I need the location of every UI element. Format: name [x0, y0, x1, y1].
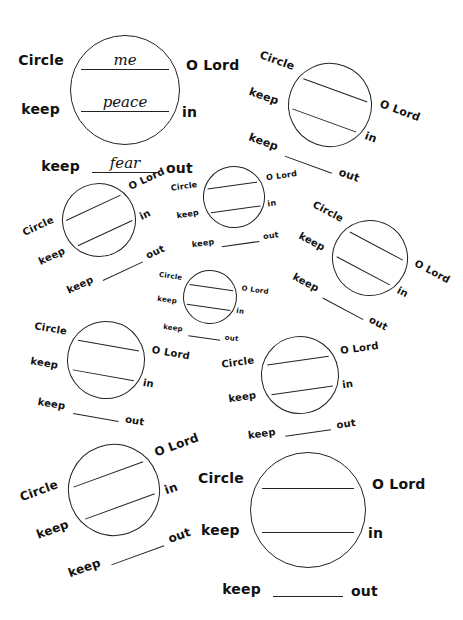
blank-line-circle[interactable] — [262, 488, 355, 489]
label-circle: Circle — [158, 271, 182, 281]
label-in: in — [363, 131, 378, 145]
label-o-lord: O Lord — [151, 345, 191, 362]
label-circle: Circle — [221, 355, 255, 370]
label-circle: Circle — [34, 321, 68, 337]
label-o-lord: O Lord — [241, 286, 269, 297]
prayer-circle — [180, 267, 241, 328]
label-out: out — [337, 167, 361, 185]
blank-line-keep-out[interactable] — [222, 241, 259, 247]
label-circle: Circle — [21, 214, 55, 237]
label-circle: Circle — [258, 50, 296, 73]
blank-line-keep-out[interactable] — [112, 545, 164, 565]
label-out: out — [351, 584, 378, 598]
label-o-lord: O Lord — [372, 477, 425, 491]
label-out: out — [336, 418, 357, 431]
label-out: out — [144, 243, 166, 260]
label-out: out — [167, 526, 193, 545]
label-keep-bottom: keep — [163, 324, 184, 334]
label-out: out — [367, 314, 389, 332]
filled-word-fear: fear — [92, 156, 158, 171]
label-keep: keep — [30, 356, 59, 371]
label-keep-bottom: keep — [192, 239, 215, 250]
blank-line-keep-in[interactable] — [262, 532, 355, 533]
label-out: out — [166, 161, 193, 175]
label-keep: keep — [157, 296, 178, 306]
label-keep-bottom: keep — [37, 397, 66, 412]
label-in: in — [368, 526, 383, 540]
label-circle: Circle — [198, 471, 244, 485]
label-o-lord: O Lord — [153, 432, 200, 459]
blank-line-keep-out[interactable] — [273, 596, 343, 597]
filled-word-peace: peace — [81, 95, 169, 110]
label-keep: keep — [37, 246, 67, 267]
label-keep-bottom: keep — [247, 427, 276, 441]
blank-line-keep-out[interactable] — [323, 298, 364, 320]
label-keep: keep — [228, 390, 257, 404]
blank-line-keep-in[interactable] — [81, 111, 169, 112]
label-in: in — [236, 308, 245, 316]
label-keep-bottom: keep — [41, 159, 80, 173]
label-keep-bottom: keep — [67, 557, 102, 580]
label-o-lord: O Lord — [186, 58, 239, 72]
blank-line-keep-out[interactable] — [285, 430, 331, 438]
blank-line-keep-out[interactable] — [73, 413, 119, 422]
blank-line-circle[interactable] — [81, 69, 169, 70]
prayer-circle — [61, 315, 151, 405]
label-in: in — [142, 377, 155, 389]
label-circle: Circle — [18, 53, 64, 67]
label-keep: keep — [35, 518, 70, 541]
label-in: in — [342, 378, 354, 389]
blank-line-keep-out[interactable] — [188, 335, 220, 340]
label-o-lord: O Lord — [378, 98, 421, 123]
filled-word-me: me — [81, 53, 169, 68]
label-o-lord: O Lord — [413, 258, 452, 285]
label-in: in — [163, 481, 179, 497]
prayer-circle — [199, 162, 269, 232]
prayer-circle — [250, 452, 366, 568]
label-keep: keep — [201, 523, 240, 537]
label-circle: Circle — [18, 478, 59, 503]
label-out: out — [224, 334, 239, 343]
label-circle: Circle — [170, 181, 198, 193]
label-keep-bottom: keep — [291, 272, 320, 294]
label-out: out — [124, 415, 145, 428]
prayer-circle — [256, 331, 344, 419]
label-out: out — [263, 232, 280, 242]
label-keep: keep — [176, 209, 199, 220]
label-o-lord: O Lord — [340, 341, 380, 356]
label-keep-bottom: keep — [65, 274, 95, 295]
label-in: in — [395, 285, 409, 299]
label-in: in — [138, 208, 152, 222]
label-keep-bottom: keep — [222, 582, 261, 596]
label-in: in — [182, 105, 197, 119]
label-keep-bottom: keep — [247, 132, 280, 153]
label-keep: keep — [21, 102, 60, 116]
label-keep: keep — [297, 231, 326, 253]
blank-line-keep-out[interactable] — [103, 261, 144, 281]
label-circle: Circle — [311, 200, 345, 224]
label-in: in — [267, 200, 277, 209]
label-keep: keep — [248, 86, 281, 107]
label-o-lord: O Lord — [266, 170, 298, 182]
